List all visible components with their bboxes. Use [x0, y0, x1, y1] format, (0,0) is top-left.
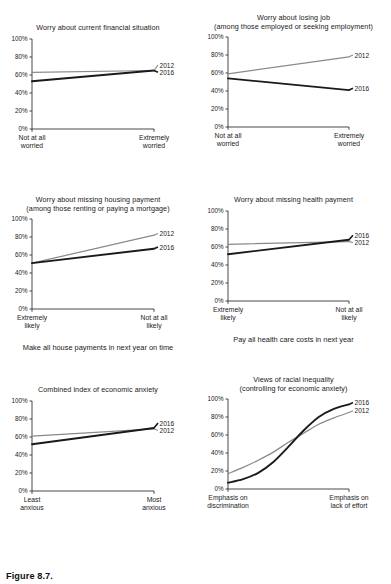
y-tick-label: 60%: [211, 70, 224, 77]
series-end-label-2012: 2012: [355, 52, 370, 59]
figure-caption: Figure 8.7.: [6, 571, 53, 581]
x-tick-label: Emphasis on: [208, 494, 248, 502]
series-end-label-2016: 2016: [160, 68, 175, 75]
y-tick-label: 100%: [11, 216, 28, 223]
y-tick-label: 80%: [211, 52, 224, 59]
x-tick-label: Extremely: [17, 314, 48, 322]
y-tick-label: 20%: [211, 468, 224, 475]
series-line-2012: [228, 57, 349, 74]
chart-axis-subtitle: Pay all health care costs in next year: [196, 335, 391, 344]
chart-title: Worry about missing health payment: [196, 196, 391, 205]
chart-svg-combined-index-economic-anxiety: 0%20%40%60%80%100%LeastanxiousMostanxiou…: [0, 395, 196, 525]
y-tick-label: 40%: [211, 88, 224, 95]
series-end-label-2012: 2012: [160, 230, 175, 237]
y-tick-label: 80%: [15, 415, 28, 422]
y-tick-label: 0%: [214, 486, 224, 493]
chart-svg-worry-missing-housing-payment: 0%20%40%60%80%100%ExtremelylikelyNot at …: [0, 213, 196, 343]
x-tick-label: likely: [24, 322, 40, 330]
y-tick-label: 40%: [15, 270, 28, 277]
y-tick-label: 100%: [207, 396, 224, 403]
x-tick-label: Not at all: [19, 133, 46, 140]
series-end-label-2016: 2016: [160, 419, 175, 426]
chart-svg-worry-missing-health-payment: 0%20%40%60%80%100%ExtremelylikelyNot at …: [196, 205, 391, 335]
chart-plot-area: 0%20%40%60%80%100%ExtremelylikelyNot at …: [0, 213, 196, 343]
series-line-2012: [32, 235, 154, 263]
chart-panel-combined-index-economic-anxiety: Combined index of economic anxiety 0%20%…: [0, 386, 196, 525]
chart-title: Worry about losing job (among those empl…: [196, 14, 391, 31]
chart-panel-worry-current-financial: Worry about current financial situation …: [0, 24, 196, 163]
series-line-2016: [228, 405, 349, 483]
x-tick-label: Not at all: [336, 305, 363, 312]
series-end-label-2012: 2012: [160, 426, 175, 433]
x-tick-label: Least: [24, 495, 41, 502]
y-tick-label: 0%: [214, 297, 224, 304]
x-tick-label: anxious: [142, 503, 166, 510]
y-tick-label: 40%: [211, 261, 224, 268]
chart-title: Worry about missing housing payment (amo…: [0, 196, 196, 213]
x-tick-label: Not at all: [215, 132, 242, 139]
x-tick-label: Not at all: [141, 314, 168, 321]
y-tick-label: 20%: [15, 107, 28, 114]
y-tick-label: 20%: [211, 279, 224, 286]
x-tick-label: Emphasis on: [329, 494, 369, 502]
x-tick-label: worried: [20, 141, 44, 148]
chart-panel-worry-missing-health-payment: Worry about missing health payment 0%20%…: [196, 196, 391, 344]
chart-plot-area: 0%20%40%60%80%100%Emphasis ondiscriminat…: [196, 393, 391, 523]
x-tick-label: discrimination: [207, 502, 249, 509]
y-tick-label: 40%: [15, 451, 28, 458]
chart-svg-worry-current-financial: 0%20%40%60%80%100%Not at allworriedExtre…: [0, 33, 196, 163]
y-tick-label: 80%: [15, 53, 28, 60]
chart-title: Worry about current financial situation: [0, 24, 196, 33]
y-tick-label: 60%: [211, 432, 224, 439]
chart-plot-area: 0%20%40%60%80%100%LeastanxiousMostanxiou…: [0, 395, 196, 525]
chart-plot-area: 0%20%40%60%80%100%Not at allworriedExtre…: [0, 33, 196, 163]
y-tick-label: 0%: [18, 125, 28, 132]
chart-panel-views-racial-inequality: Views of racial inequality (controlling …: [196, 376, 391, 523]
y-tick-label: 100%: [11, 35, 28, 42]
y-tick-label: 100%: [207, 34, 224, 41]
y-tick-label: 80%: [211, 414, 224, 421]
y-tick-label: 60%: [15, 433, 28, 440]
series-end-label-2012: 2012: [355, 407, 370, 414]
x-tick-label: lack of effort: [331, 502, 368, 509]
x-tick-label: Extremely: [213, 305, 244, 313]
y-tick-label: 40%: [211, 450, 224, 457]
chart-plot-area: 0%20%40%60%80%100%ExtremelylikelyNot at …: [196, 205, 391, 335]
series-line-2016: [228, 79, 349, 91]
chart-panel-worry-missing-housing-payment: Worry about missing housing payment (amo…: [0, 196, 196, 352]
y-tick-label: 60%: [15, 71, 28, 78]
series-end-label-2016: 2016: [355, 231, 370, 238]
y-tick-label: 20%: [211, 106, 224, 113]
series-line-2016: [228, 239, 349, 253]
figure-panel-grid: Worry about current financial situation …: [0, 0, 391, 584]
x-tick-label: likely: [341, 313, 357, 321]
x-tick-label: likely: [220, 313, 236, 321]
chart-title: Views of racial inequality (controlling …: [196, 376, 391, 393]
chart-svg-worry-losing-job: 0%20%40%60%80%100%Not at allworriedExtre…: [196, 31, 391, 161]
y-tick-label: 100%: [207, 207, 224, 214]
series-end-label-2012: 2012: [160, 61, 175, 68]
y-tick-label: 0%: [18, 306, 28, 313]
x-tick-label: Extremely: [139, 133, 170, 141]
x-tick-label: likely: [146, 322, 162, 330]
y-tick-label: 80%: [15, 234, 28, 241]
chart-plot-area: 0%20%40%60%80%100%Not at allworriedExtre…: [196, 31, 391, 161]
series-line-2016: [32, 428, 154, 444]
y-tick-label: 100%: [11, 397, 28, 404]
y-tick-label: 40%: [15, 89, 28, 96]
x-tick-label: Extremely: [334, 132, 365, 140]
series-end-label-2016: 2016: [160, 244, 175, 251]
x-tick-label: worried: [216, 140, 240, 147]
x-tick-label: Most: [147, 495, 162, 502]
y-tick-label: 60%: [211, 243, 224, 250]
x-tick-label: anxious: [20, 503, 44, 510]
series-line-2016: [32, 249, 154, 263]
chart-svg-views-racial-inequality: 0%20%40%60%80%100%Emphasis ondiscriminat…: [196, 393, 391, 523]
y-tick-label: 0%: [18, 487, 28, 494]
y-tick-label: 0%: [214, 124, 224, 131]
chart-title: Combined index of economic anxiety: [0, 386, 196, 395]
x-tick-label: worried: [337, 140, 361, 147]
y-tick-label: 20%: [15, 288, 28, 295]
chart-axis-subtitle: Make all house payments in next year on …: [0, 343, 196, 352]
y-tick-label: 80%: [211, 225, 224, 232]
